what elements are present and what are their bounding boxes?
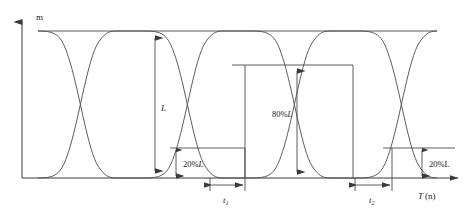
label-80-percent-symbol: L bbox=[287, 109, 293, 119]
dimension-L-group: L bbox=[155, 38, 166, 171]
y-axis-label: m bbox=[36, 12, 43, 22]
trace-rising-edge-2 bbox=[145, 31, 223, 178]
x-axis-label-symbol: T bbox=[418, 191, 424, 201]
threshold-right-group: 20%L bbox=[383, 148, 455, 176]
waveform-traces bbox=[38, 31, 437, 178]
trace-falling-edge-3 bbox=[252, 31, 330, 178]
label-rise-time: t1 bbox=[223, 195, 229, 206]
eye-diagram-canvas: L 20%L t1 80%L 20%L bbox=[0, 0, 476, 209]
threshold-left-group: 20%L bbox=[170, 148, 245, 176]
trace-falling-edge-2 bbox=[145, 31, 223, 178]
eye-opening-group: 80%L bbox=[232, 65, 353, 178]
dimension-t2-group: t2 bbox=[355, 148, 392, 206]
label-20-percent-left-symbol: L bbox=[198, 159, 204, 169]
label-20-percent-right: 20%L bbox=[429, 159, 450, 169]
label-fall-time: t2 bbox=[369, 195, 375, 206]
eye-diagram-figure: L 20%L t1 80%L 20%L bbox=[0, 0, 476, 209]
trace-falling-edge-4 bbox=[359, 31, 437, 178]
trace-falling-edge-1 bbox=[38, 31, 116, 178]
trace-rising-edge-3 bbox=[252, 31, 330, 178]
axes-group bbox=[22, 22, 458, 178]
label-rise-time-subscript: 1 bbox=[226, 200, 229, 206]
label-full-amplitude: L bbox=[160, 103, 166, 113]
x-axis-label: T(n) bbox=[418, 191, 436, 201]
dimension-t1-group: t1 bbox=[210, 148, 245, 206]
trace-rising-edge-4 bbox=[359, 31, 437, 178]
trace-rising-edge-1 bbox=[38, 31, 116, 178]
label-20-percent-left: 20%L bbox=[183, 159, 204, 169]
label-80-percent: 80%L bbox=[272, 109, 293, 119]
label-fall-time-subscript: 2 bbox=[372, 200, 375, 206]
axis-labels-group: m T(n) bbox=[36, 12, 436, 201]
x-axis-label-unit: (n) bbox=[425, 191, 436, 201]
